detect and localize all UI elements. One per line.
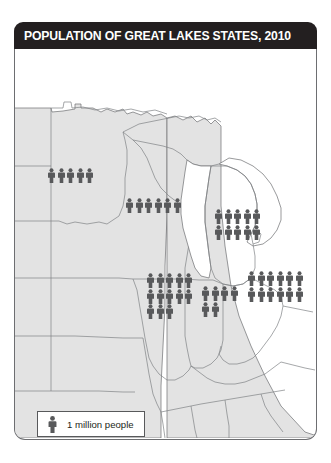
person-icon [201, 302, 210, 317]
pictogram-cluster-wisconsin [125, 198, 185, 214]
person-icon [266, 287, 275, 302]
person-icon [266, 271, 275, 286]
person-icon [47, 416, 58, 433]
person-icon [295, 287, 304, 302]
person-icon [211, 302, 220, 317]
person-icon [175, 273, 184, 288]
person-icon [163, 198, 172, 213]
person-icon [76, 168, 85, 183]
person-icon [233, 209, 242, 224]
person-icon [125, 198, 134, 213]
person-icon [156, 289, 165, 304]
person-icon [165, 304, 174, 319]
person-icon [214, 225, 223, 240]
person-icon [154, 198, 163, 213]
person-icon [230, 286, 239, 301]
person-icon [220, 286, 229, 301]
map-frame: 1 million people [14, 46, 317, 440]
person-icon [252, 209, 261, 224]
person-icon [295, 271, 304, 286]
person-icon [184, 273, 193, 288]
person-icon [252, 225, 261, 240]
person-icon [214, 209, 223, 224]
pictogram-cluster-minnesota [47, 168, 97, 184]
person-icon [211, 286, 220, 301]
person-icon [144, 198, 153, 213]
us-great-lakes-map [15, 46, 316, 438]
person-icon [173, 198, 182, 213]
person-icon [57, 168, 66, 183]
pictogram-cluster-illinois [146, 273, 196, 320]
person-icon [175, 289, 184, 304]
title-bar: POPULATION OF GREAT LAKES STATES, 2010 [14, 22, 317, 49]
person-icon [243, 225, 252, 240]
person-icon [165, 289, 174, 304]
person-icon [276, 271, 285, 286]
infographic-card: POPULATION OF GREAT LAKES STATES, 2010 [14, 22, 317, 440]
person-icon [146, 304, 155, 319]
person-icon [285, 271, 294, 286]
person-icon [66, 168, 75, 183]
person-icon [224, 209, 233, 224]
legend-label: 1 million people [67, 419, 134, 430]
person-icon [257, 287, 266, 302]
person-icon [247, 287, 256, 302]
legend: 1 million people [37, 411, 145, 437]
person-icon [156, 304, 165, 319]
pictogram-cluster-ohio [247, 271, 307, 302]
person-icon [85, 168, 94, 183]
person-icon [156, 273, 165, 288]
person-icon [247, 271, 256, 286]
person-icon [285, 287, 294, 302]
person-icon [47, 168, 56, 183]
person-icon [184, 289, 193, 304]
person-icon [257, 271, 266, 286]
person-icon [146, 273, 155, 288]
person-icon [276, 287, 285, 302]
person-icon [146, 289, 155, 304]
person-icon [165, 273, 174, 288]
person-icon [243, 209, 252, 224]
person-icon [201, 286, 210, 301]
person-icon [233, 225, 242, 240]
person-icon [135, 198, 144, 213]
person-icon [224, 225, 233, 240]
pictogram-cluster-indiana [201, 286, 241, 317]
page-title: POPULATION OF GREAT LAKES STATES, 2010 [14, 29, 291, 43]
pictogram-cluster-michigan [214, 209, 264, 240]
